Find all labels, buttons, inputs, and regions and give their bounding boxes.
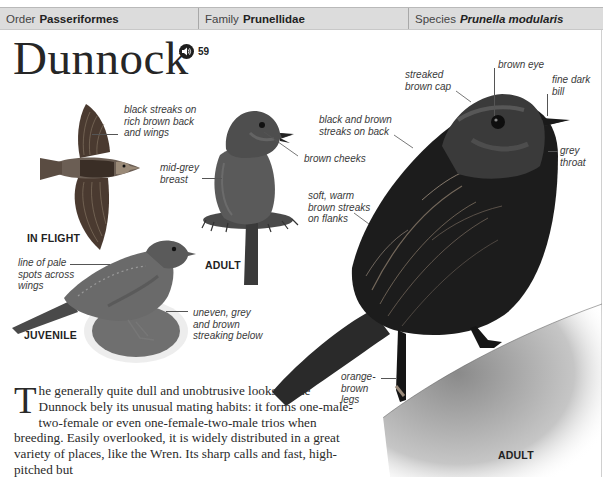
annotation-line: and brown <box>193 319 262 331</box>
leader-line <box>455 90 475 104</box>
annotation-line: streaks on back <box>319 126 392 138</box>
annotation-grey-throat: grey throat <box>560 145 586 168</box>
leader-line <box>166 311 188 312</box>
annotation-streaked-cap: streaked brown cap <box>405 69 451 92</box>
order-label: Order <box>6 13 35 25</box>
annotation-line: line of pale <box>18 257 74 269</box>
leader-line <box>494 68 495 116</box>
annotation-line: streaking below <box>193 330 262 342</box>
page-title: Dunnock <box>13 35 189 82</box>
annotation-line: orange- <box>341 371 375 383</box>
annotation-line: grey <box>560 145 586 157</box>
leader-line <box>548 151 558 152</box>
family-cell: Family Prunellidae <box>198 8 408 29</box>
annotation-line: breast <box>160 174 199 186</box>
annotation-line: throat <box>560 157 586 169</box>
description-text: he generally quite dull and unobtrusive … <box>14 383 353 477</box>
caption-adult-large: ADULT <box>498 449 534 461</box>
annotation-flight-streaks: black streaks on rich brown back and win… <box>124 104 196 139</box>
annotation-line: black streaks on <box>124 104 196 116</box>
annotation-line: bill <box>552 86 590 98</box>
speaker-icon[interactable] <box>179 44 194 59</box>
annotation-pale-wing-spots: line of pale spots across wings <box>18 257 74 292</box>
annotation-mid-grey-breast: mid-grey breast <box>160 162 199 185</box>
caption-juvenile: JUVENILE <box>24 329 77 341</box>
audio-track-number: 59 <box>198 46 209 57</box>
annotation-back-streaks: black and brown streaks on back <box>319 114 392 137</box>
leader-line <box>393 134 415 150</box>
annotation-uneven-streaking: uneven, grey and brown streaking below <box>193 307 262 342</box>
species-label: Species <box>415 13 456 25</box>
order-cell: Order Passeriformes <box>0 8 198 29</box>
annotation-line: and wings <box>124 127 196 139</box>
annotation-line: black and brown <box>319 114 392 126</box>
drop-cap: T <box>14 386 37 415</box>
leader-line <box>381 378 396 379</box>
family-label: Family <box>205 13 239 25</box>
order-value: Passeriformes <box>39 13 118 25</box>
species-description: The generally quite dull and unobtrusive… <box>14 383 354 477</box>
annotation-line: mid-grey <box>160 162 199 174</box>
annotation-line: fine dark <box>552 74 590 86</box>
annotation-line: spots across <box>18 269 74 281</box>
leader-line <box>547 94 548 116</box>
leader-line <box>202 178 222 179</box>
annotation-line: soft, warm <box>308 190 370 202</box>
species-cell: Species Prunella modularis <box>408 8 603 29</box>
leader-line <box>353 212 371 226</box>
annotation-line: uneven, grey <box>193 307 262 319</box>
leader-line <box>92 134 118 135</box>
annotation-fine-dark-bill: fine dark bill <box>552 74 590 97</box>
family-value: Prunellidae <box>243 13 305 25</box>
upper-wing <box>78 104 110 158</box>
annotation-brown-eye: brown eye <box>498 59 544 71</box>
leader-line <box>70 264 110 265</box>
annotation-line: brown cap <box>405 81 451 93</box>
annotation-line: wings <box>18 280 74 292</box>
annotation-line: streaked <box>405 69 451 81</box>
taxonomy-header: Order Passeriformes Family Prunellidae S… <box>0 7 603 30</box>
annotation-line: rich brown back <box>124 116 196 128</box>
caption-adult-perched: ADULT <box>205 259 241 271</box>
page-top-margin <box>0 0 603 7</box>
species-value: Prunella modularis <box>460 13 564 25</box>
